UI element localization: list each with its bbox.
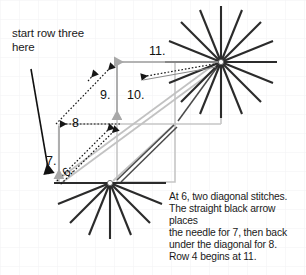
label-9: 9. <box>100 88 110 102</box>
arrow-10-diagonal <box>141 64 214 77</box>
diagram-canvas: start row three here 7. 6. 8 9. 10. 11. … <box>0 0 306 275</box>
arrow-start-hint <box>88 72 96 81</box>
label-10: 10. <box>127 88 144 102</box>
start-row-note: start row three here <box>12 27 142 54</box>
instruction-caption: At 6, two diagonal stitches. The straigh… <box>169 191 305 264</box>
label-7: 7. <box>46 154 56 168</box>
label-11: 11. <box>149 44 165 58</box>
label-8: 8 <box>72 116 79 130</box>
arrow-10-diagonal-shadow <box>143 67 216 80</box>
